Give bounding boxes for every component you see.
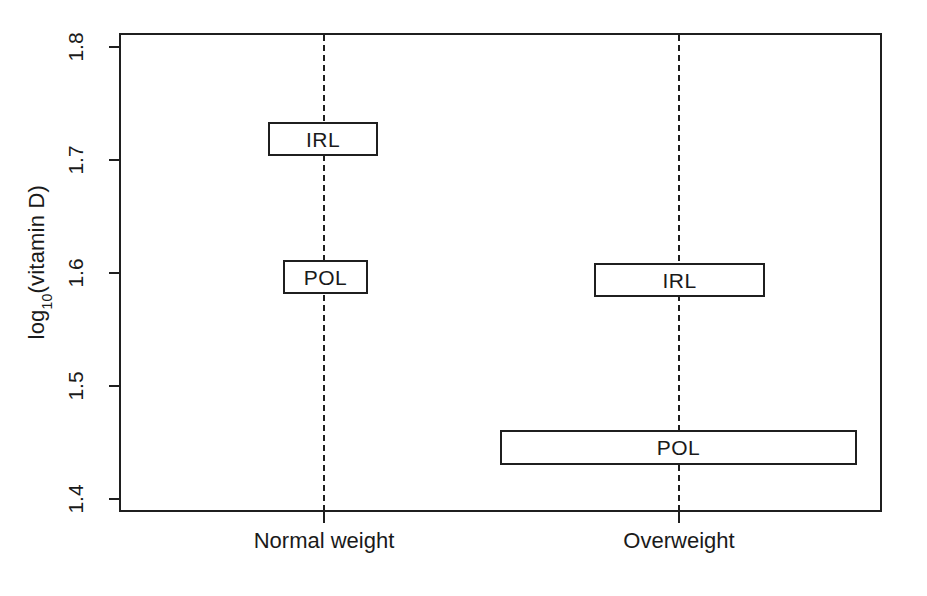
y-axis-title: log10(vitamin D) bbox=[24, 112, 52, 412]
interval-box-label: IRL bbox=[662, 270, 696, 291]
y-tick-label-2: 1.7 bbox=[64, 133, 88, 187]
y-axis-title-suffix: (vitamin D) bbox=[24, 185, 49, 294]
y-tick-label-5: 1.4 bbox=[64, 472, 88, 526]
x-tick-mark-overweight bbox=[678, 511, 680, 523]
interval-box-pol-overweight: POL bbox=[500, 430, 857, 465]
y-tick-label-1: 1.8 bbox=[64, 20, 88, 74]
y-axis-title-subscript: 10 bbox=[39, 293, 55, 309]
y-axis-title-prefix: log bbox=[24, 309, 49, 339]
chart-figure: log10(vitamin D) 1.8 1.7 1.6 1.5 1.4 IRL… bbox=[0, 0, 927, 596]
interval-box-label: POL bbox=[657, 437, 701, 458]
x-tick-mark-normal-weight bbox=[323, 511, 325, 523]
interval-box-label: IRL bbox=[306, 129, 340, 150]
interval-box-pol-normal-weight: POL bbox=[283, 260, 368, 294]
x-tick-label-overweight: Overweight bbox=[623, 528, 734, 554]
y-tick-label-3: 1.6 bbox=[64, 246, 88, 300]
interval-box-irl-normal-weight: IRL bbox=[268, 122, 378, 156]
y-tick-label-4: 1.5 bbox=[64, 359, 88, 413]
interval-box-label: POL bbox=[304, 267, 348, 288]
x-tick-label-normal-weight: Normal weight bbox=[254, 528, 395, 554]
interval-box-irl-overweight: IRL bbox=[594, 263, 765, 297]
